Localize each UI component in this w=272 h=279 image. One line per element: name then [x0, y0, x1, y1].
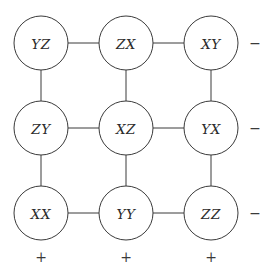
node-label: YY — [116, 206, 136, 222]
node-label: YZ — [31, 36, 51, 52]
column-sign-plus: + — [35, 249, 47, 265]
grid-graph-diagram: YZZXXYZYXZYXXXYYZZ −−−+++ — [0, 0, 272, 279]
node-label: ZZ — [200, 206, 221, 222]
node-label: ZX — [115, 36, 137, 52]
node-label: YX — [201, 121, 222, 137]
graph-node[interactable]: YY — [99, 186, 153, 240]
graph-node[interactable]: XX — [14, 186, 68, 240]
node-label: XY — [200, 36, 221, 52]
graph-node[interactable]: XZ — [99, 101, 153, 155]
graph-node[interactable]: ZZ — [184, 186, 238, 240]
nodes-layer: YZZXXYZYXZYXXXYYZZ — [14, 16, 238, 240]
row-sign-minus: − — [249, 205, 261, 221]
graph-node[interactable]: ZY — [14, 101, 68, 155]
node-label: ZY — [30, 121, 51, 137]
row-sign-minus: − — [249, 120, 261, 136]
row-sign-minus: − — [249, 35, 261, 51]
graph-node[interactable]: YZ — [14, 16, 68, 70]
node-label: XX — [30, 206, 52, 222]
graph-canvas: YZZXXYZYXZYXXXYYZZ −−−+++ — [0, 0, 272, 279]
graph-node[interactable]: ZX — [99, 16, 153, 70]
column-sign-plus: + — [120, 249, 132, 265]
graph-node[interactable]: XY — [184, 16, 238, 70]
column-sign-plus: + — [205, 249, 217, 265]
graph-node[interactable]: YX — [184, 101, 238, 155]
node-label: XZ — [115, 121, 136, 137]
